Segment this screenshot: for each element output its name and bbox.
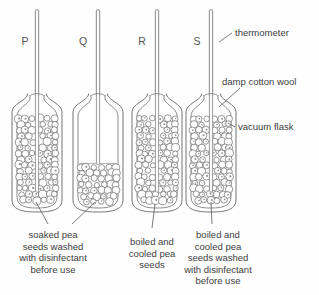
pea-seed-mark [19, 163, 21, 165]
pea-seed-mark [27, 147, 28, 148]
pea-seed-mark [201, 124, 202, 125]
pea-seed [79, 181, 84, 186]
pea-seed [91, 175, 97, 181]
pea-seed [29, 116, 35, 122]
pea-seed-mark [145, 129, 147, 131]
caption-line: before use [196, 275, 241, 286]
pea-seed-mark [206, 152, 207, 153]
pea-seed-mark [217, 169, 219, 171]
pea-seed [22, 185, 27, 190]
pea-seed [160, 144, 166, 150]
pea-seed-mark [175, 134, 177, 136]
caption-line: seeds washed [23, 241, 84, 252]
pea-seed [171, 144, 179, 152]
pea-seed [85, 182, 91, 188]
pea-seed-mark [175, 187, 176, 188]
pea-seed-mark [28, 199, 30, 201]
figure-canvas: PQRS thermometerdamp cotton woolvacuum f… [0, 0, 319, 295]
pea-seed [40, 133, 46, 139]
pea-seed-mark [152, 153, 154, 155]
pea-seed-mark [192, 165, 194, 167]
pea-seed-mark [224, 199, 226, 201]
pea-seed [51, 115, 58, 122]
pea-seed [221, 168, 227, 174]
pea-seed [136, 115, 142, 121]
pea-seed-mark [138, 187, 140, 189]
pea-seed [198, 144, 205, 151]
pea-seed-mark [204, 199, 206, 201]
pea-seed-mark [164, 123, 166, 125]
pea-seed-mark [141, 157, 143, 159]
pea-seed-mark [18, 117, 20, 119]
pea-seed-mark [170, 199, 172, 201]
pea-seed-mark [175, 118, 177, 120]
vacuum-flask-experiment-diagram: PQRS thermometerdamp cotton woolvacuum f… [0, 0, 319, 295]
caption-line: cooled pea [129, 248, 176, 259]
pea-seed [21, 138, 29, 146]
pea-seed [146, 180, 151, 185]
pea-seed [172, 156, 178, 162]
pea-seed-mark [54, 147, 55, 148]
pea-seed-mark [32, 164, 34, 166]
pea-seed-mark [216, 124, 218, 126]
pea-seed-mark [159, 118, 161, 120]
pea-seed-mark [144, 117, 145, 118]
pea-seed-mark [227, 194, 229, 196]
pea-seed-mark [228, 158, 230, 160]
pea-seed [150, 163, 155, 168]
caption-line: soaked pea [28, 229, 78, 240]
pea-seed [195, 174, 202, 181]
thermometer-q-stem [96, 10, 99, 164]
pea-seed [149, 185, 156, 192]
pea-seed [171, 191, 177, 197]
caption-labels: soaked peaseeds washedwith disinfectantb… [18, 202, 252, 286]
damp-cotton-wool-callout: damp cotton wool [222, 76, 296, 87]
pea-seed-mark [55, 181, 56, 182]
pea-seed [21, 162, 27, 168]
pea-seed-mark [47, 153, 49, 155]
pea-seed-mark [163, 135, 164, 136]
pea-seed [164, 150, 171, 157]
pea-seed-mark [55, 169, 57, 171]
pea-seed-mark [50, 134, 52, 136]
pea-seed-mark [221, 176, 223, 178]
pea-seed [51, 127, 57, 133]
pea-seed-mark [170, 159, 172, 161]
pea-seed-mark [210, 193, 212, 195]
pea-seed [225, 161, 232, 168]
pea-seed-mark [192, 129, 194, 131]
pea-seed-mark [32, 175, 34, 177]
pea-seed-mark [175, 181, 177, 183]
pea-seed [135, 161, 142, 168]
pea-seed-mark [163, 182, 165, 184]
soaked-pea-caption: soaked peaseeds washedwith disinfectantb… [18, 229, 87, 275]
pea-seed [146, 121, 152, 127]
pea-seed-mark [32, 187, 34, 189]
pea-seed-mark [194, 158, 196, 160]
caption-line: with disinfectant [183, 264, 252, 275]
pea-seed [45, 173, 51, 179]
pea-seed [113, 174, 120, 181]
pea-seed-mark [47, 187, 49, 189]
pea-seed [106, 198, 114, 206]
pea-seed-mark [199, 118, 201, 120]
pea-seed-mark [103, 196, 104, 197]
pea-seed-mark [221, 118, 223, 120]
pea-seed-mark [47, 130, 49, 132]
pea-seed [173, 151, 178, 156]
pea-seed-mark [35, 193, 37, 195]
pea-seed [214, 144, 221, 151]
pea-seed-mark [160, 152, 162, 154]
pea-seed [40, 121, 45, 126]
pea-seed-mark [229, 175, 231, 177]
thermometer-p-stem [35, 10, 38, 192]
pea-seed-mark [101, 200, 103, 202]
pea-seed-mark [28, 158, 30, 160]
pea-seed-mark [228, 182, 230, 184]
pea-seed [17, 179, 23, 185]
boiled-cooled-caption: boiled andcooled peaseeds [129, 236, 176, 270]
caption-line: boiled and [130, 236, 174, 247]
thermometer-callout: thermometer [235, 27, 289, 38]
caption-line: with disinfectant [18, 252, 87, 263]
caption-line: before use [31, 264, 76, 275]
